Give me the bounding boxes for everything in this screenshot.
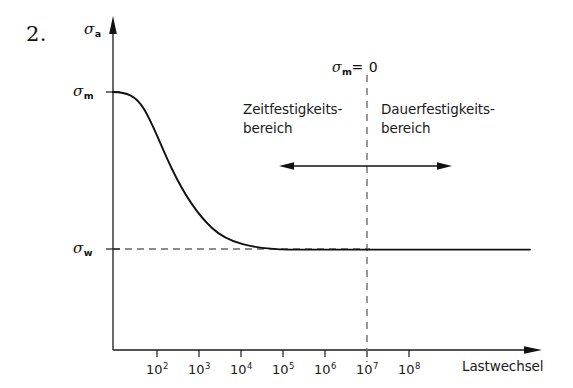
region-range-arrow — [279, 162, 452, 170]
tick-mantissa: 10 — [314, 362, 331, 377]
x-tick-label-6: 108 — [398, 362, 420, 377]
tick-mantissa: 10 — [188, 362, 205, 377]
sigma-w-subscript: w — [84, 247, 93, 258]
x-tick-label-0: 102 — [146, 362, 168, 377]
sigma-glyph: σ — [332, 59, 342, 75]
y-axis-symbol: σa — [84, 20, 101, 38]
tick-mantissa: 10 — [356, 362, 373, 377]
x-tick-label-2: 104 — [230, 362, 252, 377]
tick-mantissa: 10 — [230, 362, 247, 377]
x-axis-ticks — [157, 350, 409, 357]
tick-exponent: 5 — [289, 361, 294, 371]
woehler-curve-plot — [0, 0, 573, 388]
tick-mantissa: 10 — [398, 362, 415, 377]
y-axis — [109, 16, 117, 350]
tick-mantissa: 10 — [272, 362, 289, 377]
region-label-zeitfestigkeitsbereich: Zeitfestigkeits- bereich — [243, 100, 342, 138]
sigma-m-zero-subscript: m — [342, 66, 352, 77]
sigma-glyph: σ — [73, 82, 83, 100]
x-tick-label-5: 107 — [356, 362, 378, 377]
figure-root: 2. — [0, 0, 573, 388]
x-axis-title: Lastwechsel — [462, 358, 543, 374]
sigma-w-marker-label: σw — [73, 239, 92, 257]
sigma-glyph: σ — [73, 239, 83, 257]
tick-exponent: 4 — [247, 361, 252, 371]
region-label-dauerfestigkeitsbereich: Dauerfestigkeits- bereich — [381, 100, 495, 138]
x-tick-label-4: 106 — [314, 362, 336, 377]
sigma-glyph: σ — [84, 20, 94, 38]
y-axis-subscript: a — [95, 28, 101, 39]
x-tick-label-3: 105 — [272, 362, 294, 377]
x-axis — [113, 346, 542, 354]
sigma-m-subscript: m — [84, 90, 94, 101]
x-tick-label-1: 103 — [188, 362, 210, 377]
sigma-m-zero-equals: = 0 — [351, 59, 378, 75]
tick-exponent: 3 — [205, 361, 210, 371]
tick-exponent: 6 — [331, 361, 336, 371]
sigma-m-marker-label: σm — [73, 82, 93, 100]
sigma-m-zero-label: σm= 0 — [332, 59, 378, 75]
tick-exponent: 8 — [415, 361, 420, 371]
tick-exponent: 7 — [373, 361, 378, 371]
tick-mantissa: 10 — [146, 362, 163, 377]
tick-exponent: 2 — [163, 361, 168, 371]
